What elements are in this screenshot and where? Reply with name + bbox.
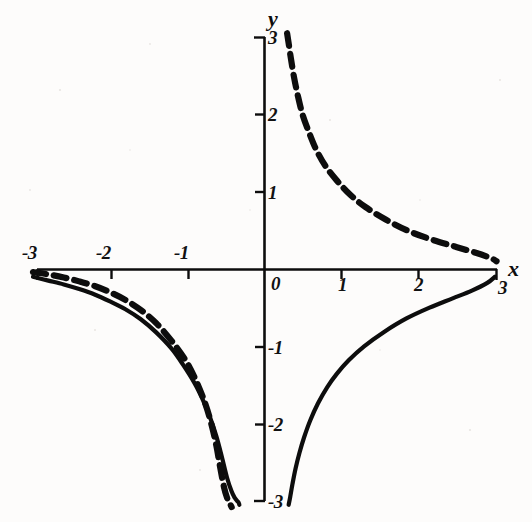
x-tick-label-neg2: -2: [96, 243, 111, 262]
y-tick-label-neg2: -2: [268, 415, 283, 434]
origin-label: 0: [271, 274, 281, 293]
x-tick-label-pos2: 2: [414, 275, 423, 294]
y-tick-label-neg1: -1: [268, 338, 283, 357]
x-tick-label-neg1: -1: [174, 243, 189, 262]
x-tick-label-neg3: -3: [22, 243, 37, 262]
graph-figure: y x 0 -3 -2 -1 1 2 3 3 2 1 -1 -2 -3: [0, 0, 532, 522]
paper-background: [0, 0, 532, 522]
x-tick-label-pos1: 1: [338, 275, 347, 294]
y-tick-label-pos3: 3: [268, 28, 277, 47]
y-tick-label-pos2: 2: [268, 105, 277, 124]
y-tick-label-neg3: -3: [268, 492, 283, 511]
y-tick-label-pos1: 1: [268, 183, 277, 202]
x-axis-label: x: [508, 258, 519, 280]
plot-canvas: [0, 0, 532, 522]
x-tick-label-pos3: 3: [498, 278, 507, 297]
